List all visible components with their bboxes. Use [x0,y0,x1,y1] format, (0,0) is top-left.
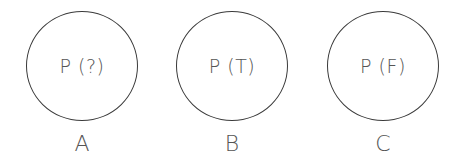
circle-b-text: P (T) [209,55,255,77]
label-b: B [176,131,288,156]
circle-a-text: P (?) [60,55,105,77]
label-c: C [327,131,439,156]
label-a: A [26,131,138,156]
circle-c: P (F) [327,11,439,121]
circle-c-text: P (F) [360,55,406,77]
circle-a: P (?) [26,11,138,121]
circle-b: P (T) [176,11,288,121]
